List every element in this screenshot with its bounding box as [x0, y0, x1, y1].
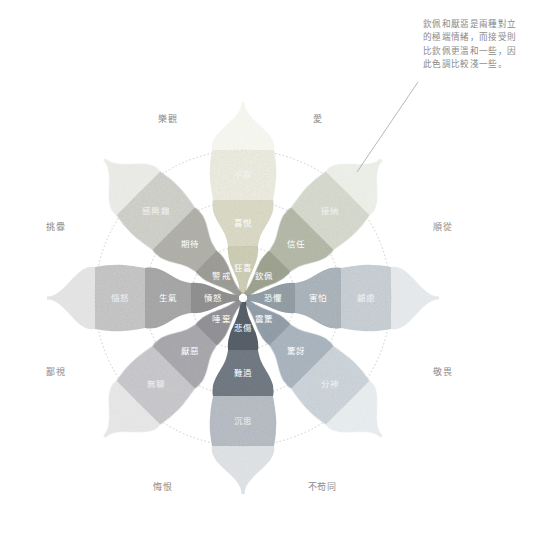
dyad-label-contempt: 鄙視 — [46, 366, 65, 377]
petals-group — [47, 102, 439, 494]
emotion-label-sadness-intense: 悲傷 — [234, 323, 253, 333]
emotion-label-joy-basic: 喜悅 — [234, 218, 253, 228]
emotion-label-anticipation-basic: 期待 — [181, 239, 200, 249]
emotion-label-surprise-mild: 分神 — [321, 379, 340, 389]
emotion-label-sadness-basic: 難過 — [234, 368, 253, 378]
emotion-label-fear-intense: 恐懼 — [264, 293, 283, 303]
emotion-label-anger-mild: 惱怒 — [111, 293, 130, 303]
dyad-label-aggressiveness: 挑釁 — [46, 221, 65, 232]
petal-tip-sadness — [212, 446, 275, 494]
emotion-label-trust-intense: 欽佩 — [255, 271, 274, 281]
callout-leader-line — [357, 82, 418, 172]
emotion-label-anticipation-mild: 感興趣 — [142, 206, 170, 216]
emotion-label-anticipation-intense: 警戒 — [212, 271, 231, 281]
petal-tip-fear — [391, 267, 439, 330]
emotion-label-anger-intense: 憤怒 — [204, 293, 223, 303]
annotation-line-4: 此色調比較淺一些。 — [423, 58, 535, 71]
emotion-label-sadness-mild: 沉思 — [234, 416, 253, 426]
emotion-label-trust-basic: 信任 — [287, 239, 306, 249]
emotion-label-anger-basic: 生氣 — [159, 293, 178, 303]
emotion-label-joy-intense: 狂喜 — [234, 263, 253, 273]
emotion-label-joy-mild: 平靜 — [234, 170, 253, 180]
dyad-label-disapproval: 不苟同 — [308, 481, 337, 492]
emotion-wheel-diagram: 狂喜喜悅平靜欽佩信任接納恐懼害怕顧慮震驚驚訝分神悲傷難過沉思唾棄厭惡無聊憤怒生氣… — [0, 0, 544, 549]
dyad-label-optimism: 樂觀 — [158, 113, 177, 124]
dyad-label-awe: 敬畏 — [433, 366, 452, 377]
emotion-label-surprise-intense: 震驚 — [255, 314, 274, 324]
dyad-label-submission: 順從 — [433, 221, 452, 232]
emotion-label-disgust-mild: 無聊 — [147, 379, 166, 389]
emotion-label-fear-basic: 害怕 — [309, 293, 328, 303]
emotion-label-surprise-basic: 驚訝 — [287, 346, 306, 356]
annotation-line-3: 比欽佩更溫和一些，因 — [423, 45, 535, 58]
emotion-label-fear-mild: 顧慮 — [357, 293, 376, 303]
annotation-leader-line — [357, 82, 418, 172]
emotion-label-trust-mild: 接納 — [321, 206, 340, 216]
annotation-line-1: 欽佩和厭惡是兩種對立 — [423, 18, 535, 31]
emotion-label-disgust-basic: 厭惡 — [181, 346, 200, 356]
wheel-svg-canvas: 狂喜喜悅平靜欽佩信任接納恐懼害怕顧慮震驚驚訝分神悲傷難過沉思唾棄厭惡無聊憤怒生氣… — [0, 0, 544, 549]
petal-tip-anger — [47, 267, 95, 330]
dyad-label-remorse: 悔恨 — [153, 481, 172, 492]
emotion-label-disgust-intense: 唾棄 — [212, 314, 231, 324]
dyad-label-love: 愛 — [313, 113, 323, 124]
annotation-text-block: 欽佩和厭惡是兩種對立的極端情緒，而接受則比欽佩更溫和一些，因此色調比較淺一些。 — [423, 18, 535, 72]
petal-tip-joy — [212, 102, 275, 150]
annotation-line-2: 的極端情緒，而接受則 — [423, 31, 535, 44]
